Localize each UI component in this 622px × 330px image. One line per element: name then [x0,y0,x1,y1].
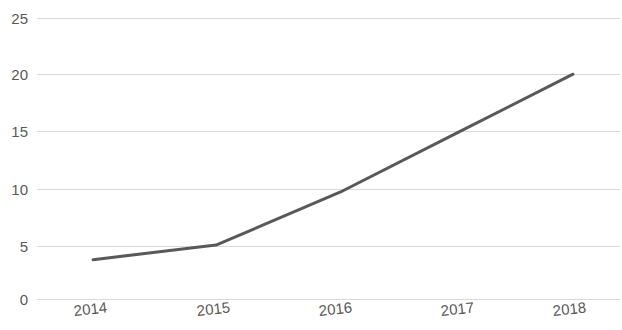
y-axis-tick-20: 20 [0,67,28,82]
line-chart: 25 20 15 10 5 0 2014 2015 2016 2017 2018 [0,0,622,330]
plot-area: 25 20 15 10 5 0 2014 2015 2016 2017 2018 [0,0,622,330]
x-axis-tick-2016: 2016 [318,300,353,318]
x-axis-tick-2014: 2014 [73,300,108,318]
y-axis-tick-15: 15 [0,124,28,139]
y-axis-tick-10: 10 [0,182,28,197]
y-axis-tick-5: 5 [0,239,28,254]
x-axis-tick-2015: 2015 [196,300,231,318]
series-1-line [0,0,622,330]
y-axis-tick-25: 25 [0,11,28,26]
y-axis-tick-0: 0 [0,292,28,307]
x-axis-tick-2017: 2017 [440,300,475,318]
gridline-10 [37,189,620,190]
gridline-5 [37,246,620,247]
x-axis-tick-2018: 2018 [552,300,587,318]
gridline-25 [37,18,620,19]
gridline-20 [37,74,620,75]
gridline-15 [37,131,620,132]
